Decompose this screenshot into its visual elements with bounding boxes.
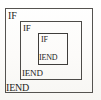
- iend-keyword-inner: IEND: [39, 54, 57, 62]
- iend-keyword-middle: IEND: [22, 69, 43, 78]
- if-keyword-middle: IF: [23, 24, 31, 33]
- iend-keyword-outer: IEND: [6, 83, 29, 93]
- if-keyword-inner: IF: [41, 36, 48, 44]
- if-keyword-outer: IF: [8, 11, 17, 21]
- diagram-canvas: IF IEND IF IEND IF IEND: [0, 0, 101, 100]
